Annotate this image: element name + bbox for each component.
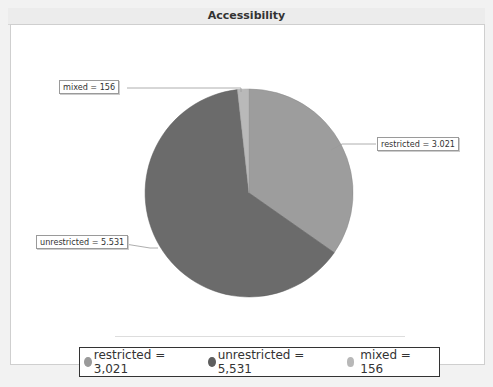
legend-label: mixed = 156 bbox=[360, 348, 435, 376]
callout-mixed: mixed = 156 bbox=[59, 80, 119, 94]
legend-item-restricted[interactable]: restricted = 3,021 bbox=[84, 348, 200, 376]
legend-item-mixed[interactable]: mixed = 156 bbox=[347, 348, 435, 376]
divider bbox=[115, 336, 405, 340]
callout-unrestricted: unrestricted = 5.531 bbox=[36, 235, 128, 249]
leader-mixed bbox=[127, 88, 241, 92]
legend-swatch-restricted-icon bbox=[84, 357, 92, 367]
pie-chart bbox=[0, 0, 493, 387]
legend-item-unrestricted[interactable]: unrestricted = 5,531 bbox=[208, 348, 339, 376]
callout-restricted: restricted = 3.021 bbox=[377, 137, 459, 151]
legend-swatch-unrestricted-icon bbox=[208, 357, 216, 367]
legend-label: restricted = 3,021 bbox=[94, 348, 200, 376]
legend-swatch-mixed-icon bbox=[347, 357, 355, 367]
legend-label: unrestricted = 5,531 bbox=[218, 348, 339, 376]
legend: restricted = 3,021 unrestricted = 5,531 … bbox=[79, 347, 440, 377]
